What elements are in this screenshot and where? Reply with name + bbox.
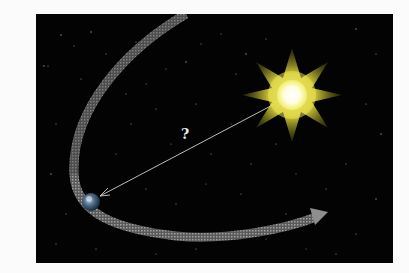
earth-icon xyxy=(82,193,100,211)
starfield-panel: ? xyxy=(36,14,393,263)
diagram-stage: ? xyxy=(0,0,409,273)
sun-icon xyxy=(242,48,342,142)
diagram-canvas xyxy=(36,14,393,263)
unknown-distance-label: ? xyxy=(181,126,189,142)
stars xyxy=(43,28,381,254)
distance-line xyxy=(100,100,282,196)
